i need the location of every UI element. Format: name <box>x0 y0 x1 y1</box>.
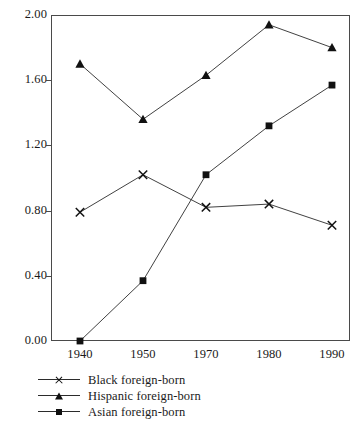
series-line <box>80 175 332 226</box>
legend-swatch <box>36 372 82 388</box>
x-axis-tick-label: 1940 <box>50 347 110 361</box>
chart-figure: 0.000.400.801.201.602.00 194019501970198… <box>0 0 364 426</box>
series-marker <box>264 20 273 28</box>
y-axis-tick-label: 0.40 <box>3 269 47 282</box>
plot-series-layer <box>51 15 350 341</box>
series-marker <box>328 221 336 229</box>
series-marker <box>201 71 210 79</box>
x-axis-tick-label: 1990 <box>302 347 362 361</box>
triangle-marker-icon <box>55 393 63 400</box>
legend-swatch <box>36 388 82 404</box>
y-axis-tick-label: 1.60 <box>3 73 47 86</box>
series-marker <box>203 171 210 178</box>
y-axis-tick-label: 1.20 <box>3 138 47 151</box>
x-axis: 19401950197019801990 <box>51 347 350 365</box>
y-axis-tick-label: 2.00 <box>3 8 47 21</box>
legend-label: Asian foreign-born <box>82 404 185 420</box>
x-axis-tick-label: 1970 <box>176 347 236 361</box>
legend-item[interactable]: Black foreign-born <box>36 372 336 388</box>
legend-label: Black foreign-born <box>82 372 185 388</box>
y-axis-tick-label: 0.00 <box>3 334 47 347</box>
series-marker <box>140 277 147 284</box>
chart-legend: Black foreign-bornHispanic foreign-bornA… <box>36 372 336 420</box>
series-marker <box>139 171 147 179</box>
y-axis: 0.000.400.801.201.602.00 <box>0 0 47 426</box>
cross-marker-icon <box>55 376 64 385</box>
square-marker-icon <box>56 409 62 415</box>
y-axis-tick-label: 0.80 <box>3 204 47 217</box>
legend-label: Hispanic foreign-born <box>82 388 201 404</box>
chart-series <box>76 171 336 230</box>
series-marker <box>327 43 336 51</box>
series-marker <box>75 59 84 67</box>
legend-item[interactable]: Asian foreign-born <box>36 404 336 420</box>
series-marker <box>329 82 336 89</box>
series-marker <box>77 338 84 345</box>
x-axis-tick-label: 1950 <box>113 347 173 361</box>
series-marker <box>76 208 84 216</box>
x-axis-tick-label: 1980 <box>239 347 299 361</box>
legend-item[interactable]: Hispanic foreign-born <box>36 388 336 404</box>
series-line <box>80 85 332 341</box>
series-marker <box>266 122 273 129</box>
legend-swatch <box>36 404 82 420</box>
